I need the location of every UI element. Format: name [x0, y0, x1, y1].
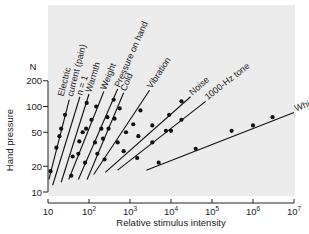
line-label: White light — [293, 89, 309, 114]
y-axis-ticks: 102050100200 — [26, 75, 48, 197]
y-tick-label: 10 — [31, 187, 42, 198]
data-point — [179, 99, 183, 103]
data-point — [81, 130, 85, 134]
data-point — [118, 106, 122, 110]
data-point — [89, 118, 93, 122]
x-axis-ticks: 10102103104105106107 — [43, 199, 302, 217]
data-point — [138, 108, 142, 112]
y-tick-label: 100 — [26, 101, 42, 112]
data-point — [94, 104, 98, 108]
plot-background — [48, 5, 295, 196]
data-point — [122, 149, 126, 153]
data-point — [116, 140, 120, 144]
data-point — [71, 154, 75, 158]
data-point — [99, 127, 103, 131]
data-point — [194, 147, 198, 151]
data-point — [59, 127, 63, 131]
y-unit-label: N — [30, 61, 37, 72]
data-point — [106, 127, 110, 131]
data-point — [124, 130, 128, 134]
chart: Electriccurrent (pain)n = 1WarmthWeightP… — [0, 0, 309, 234]
data-point — [48, 169, 52, 173]
x-axis-title: Relative stimulus intensity — [116, 217, 226, 228]
data-point — [270, 115, 274, 119]
data-point — [112, 98, 116, 102]
data-point — [251, 123, 255, 127]
data-point — [150, 123, 154, 127]
x-tick-label: 102 — [82, 205, 97, 217]
y-tick-label: 20 — [31, 161, 42, 172]
x-tick-label: 10 — [43, 206, 54, 217]
data-point — [112, 117, 116, 121]
data-point — [169, 129, 173, 133]
data-point — [57, 134, 61, 138]
data-point — [77, 139, 81, 143]
y-axis-title: Hand pressure — [4, 109, 15, 171]
data-point — [157, 161, 161, 165]
y-tick-label: 50 — [31, 127, 42, 138]
data-point — [101, 137, 105, 141]
x-tick-label: 103 — [123, 205, 138, 217]
x-tick-label: 107 — [287, 205, 302, 217]
x-tick-label: 106 — [246, 205, 261, 217]
data-point — [135, 156, 139, 160]
y-tick-label: 200 — [26, 75, 42, 86]
data-point — [95, 152, 99, 156]
data-point — [85, 101, 89, 105]
data-point — [167, 113, 171, 117]
data-point — [63, 113, 67, 117]
data-point — [229, 129, 233, 133]
data-point — [179, 118, 183, 122]
data-point — [105, 115, 109, 119]
x-tick-label: 105 — [205, 205, 220, 217]
data-point — [150, 140, 154, 144]
data-point — [131, 122, 135, 126]
x-tick-label: 104 — [164, 205, 179, 217]
data-point — [136, 134, 140, 138]
data-point — [84, 127, 88, 131]
data-point — [102, 157, 106, 161]
data-point — [93, 140, 97, 144]
data-point — [164, 129, 168, 133]
data-point — [83, 161, 87, 165]
data-point — [54, 146, 58, 150]
